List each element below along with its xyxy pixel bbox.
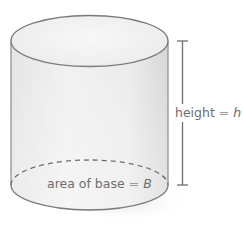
height-label-text: height: [175, 105, 215, 120]
base-label-text: area of base: [47, 176, 125, 191]
base-label-variable: B: [143, 176, 152, 191]
base-area-label: area of base = B: [47, 178, 152, 191]
height-label: height = h: [175, 106, 241, 121]
height-label-variable: h: [233, 105, 241, 120]
height-label-equals: =: [219, 105, 229, 120]
base-label-equals: =: [129, 176, 139, 191]
cylinder-top-face: [11, 16, 168, 67]
